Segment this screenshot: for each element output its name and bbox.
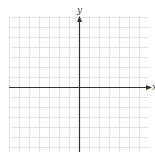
y-axis-label: y: [76, 5, 83, 15]
y-axis-arrow-icon: [77, 16, 82, 22]
x-axis-label: x: [152, 82, 155, 92]
coordinate-grid: y x: [0, 0, 155, 152]
